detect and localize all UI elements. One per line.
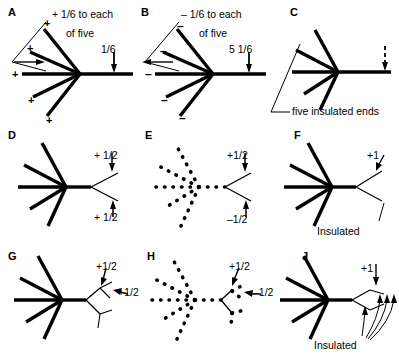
upper-arrow-head	[232, 277, 238, 286]
upper-arrow-head	[373, 277, 379, 286]
branch-lower-a	[100, 310, 112, 314]
flux-arrow-head	[246, 64, 252, 73]
figure-canvas: A + 1/6 to each of five 1/6 + +	[0, 0, 399, 363]
panel-c-graphic	[266, 0, 399, 121]
branch-upper-b-dotted	[232, 291, 243, 300]
tip-minus-4: –	[161, 93, 168, 107]
insulated-leader-3	[370, 300, 394, 340]
ray-3-dotted	[171, 256, 195, 300]
lower-arrow-head	[243, 200, 249, 209]
branch-lower-b-dotted	[231, 313, 232, 326]
panel-e-dotted-rays	[151, 143, 225, 226]
panel-j: J +1 Insulated	[266, 242, 399, 363]
panel-f-graphic	[266, 121, 399, 242]
insulated-arrow-head-2	[384, 294, 390, 303]
insulated-arrow-head-3	[391, 294, 397, 303]
tip-minus-1: –	[145, 67, 152, 81]
leader-line-upper	[271, 44, 300, 112]
tip-minus-2: –	[160, 44, 167, 58]
branch-upper	[221, 290, 232, 300]
panel-c: C five insulated ends	[266, 0, 399, 121]
branch-upper	[91, 173, 118, 187]
branch-upper	[352, 290, 370, 300]
panel-h: H +1/2 –1/2	[133, 242, 266, 363]
ray-4-dotted	[159, 300, 195, 322]
branch-lower	[356, 187, 382, 201]
branch-upper-a-dotted	[232, 284, 245, 291]
upper-arrow-head	[109, 163, 115, 172]
branch-upper-b	[100, 288, 110, 298]
panel-j-graphic	[266, 242, 399, 363]
branch-lower	[221, 300, 232, 313]
panel-d-graphic	[0, 121, 133, 242]
branch-lower-b	[98, 314, 100, 328]
inner-arrow-head	[113, 288, 122, 295]
branch-lower-a	[370, 304, 384, 310]
panel-h-graphic	[133, 242, 266, 363]
panel-b: B – 1/6 to each of five 5 1/6 – –	[133, 0, 266, 121]
tip-plus-3: +	[44, 17, 50, 29]
branch-lower	[225, 187, 251, 201]
ray-4-dotted	[163, 187, 199, 209]
panel-h-dotted-rays	[147, 256, 245, 339]
branch-lower	[352, 300, 370, 310]
branch-lower	[86, 300, 100, 314]
insulated-arrow-head-1	[377, 294, 383, 303]
branch-upper-a	[370, 290, 384, 294]
lower-arrow-head	[110, 200, 116, 209]
panel-b-graphic: – – – – –	[133, 0, 266, 121]
insulated-leader-4	[362, 312, 365, 336]
panel-e: E +1/2 –1/2	[133, 121, 266, 242]
ray-3-dotted	[175, 143, 199, 187]
panel-g-graphic	[0, 242, 133, 363]
branch-lower	[91, 187, 118, 201]
tip-minus-3: –	[177, 19, 184, 33]
leader-arrow-head	[36, 59, 45, 65]
flux-arrow-head	[382, 62, 388, 71]
ray-2-dotted	[157, 165, 199, 187]
panel-g: G +1/2 +1/2	[0, 242, 133, 363]
upper-arrow-head	[242, 163, 248, 172]
ray-2-dotted	[153, 278, 195, 300]
panel-a: A + 1/6 to each of five 1/6 + +	[0, 0, 133, 121]
panel-d: D + 1/2 + 1/2	[0, 121, 133, 242]
panel-f: F +1 Insulated	[266, 121, 399, 242]
inner-arrow-shaft	[120, 292, 128, 294]
tip-plus-1: +	[12, 68, 18, 80]
branch-upper	[86, 288, 100, 300]
insulated-leader	[379, 203, 384, 221]
tip-plus-2: +	[27, 42, 33, 54]
tip-plus-4: +	[28, 94, 34, 106]
branch-lower-a-dotted	[232, 310, 245, 313]
branch-upper	[225, 173, 251, 187]
branch-upper	[356, 171, 382, 187]
panel-a-graphic: + + + + +	[0, 0, 133, 121]
flux-arrow-head	[111, 64, 117, 73]
panel-e-graphic	[133, 121, 266, 242]
insulated-arrow-head-4	[362, 306, 368, 315]
lower-arrow-head	[244, 290, 253, 297]
